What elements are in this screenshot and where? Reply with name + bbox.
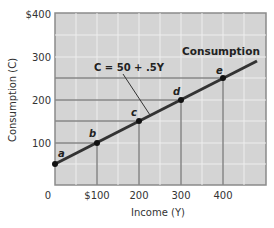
point-label-e: e bbox=[216, 65, 223, 76]
point-label-c: c bbox=[131, 107, 137, 118]
point-a bbox=[52, 161, 58, 167]
x-tick-0: 0 bbox=[45, 190, 51, 201]
equation-label: C = 50 + .5Y bbox=[94, 62, 165, 73]
y-tick-200: 200 bbox=[32, 95, 51, 106]
point-label-d: d bbox=[173, 86, 181, 97]
y-axis-label: Consumption (C) bbox=[7, 58, 18, 142]
y-tick-100: 100 bbox=[32, 138, 51, 149]
point-d bbox=[178, 97, 184, 103]
consumption-chart: a b c d e C = 50 + .5Y Consumption $400 … bbox=[0, 0, 274, 228]
point-label-b: b bbox=[89, 128, 96, 139]
point-label-a: a bbox=[58, 148, 65, 159]
x-axis-label: Income (Y) bbox=[131, 207, 185, 218]
x-tick-300: 300 bbox=[171, 190, 190, 201]
x-tick-200: 200 bbox=[129, 190, 148, 201]
point-b bbox=[94, 140, 100, 146]
series-label: Consumption bbox=[182, 45, 260, 57]
point-c bbox=[136, 118, 142, 124]
x-tick-400: 400 bbox=[213, 190, 232, 201]
y-tick-400: $400 bbox=[26, 9, 51, 20]
x-tick-100: $100 bbox=[84, 190, 109, 201]
y-tick-300: 300 bbox=[32, 52, 51, 63]
